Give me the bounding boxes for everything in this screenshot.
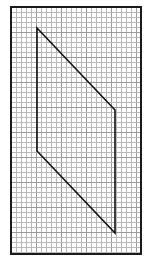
grid-diagram xyxy=(0,0,144,259)
